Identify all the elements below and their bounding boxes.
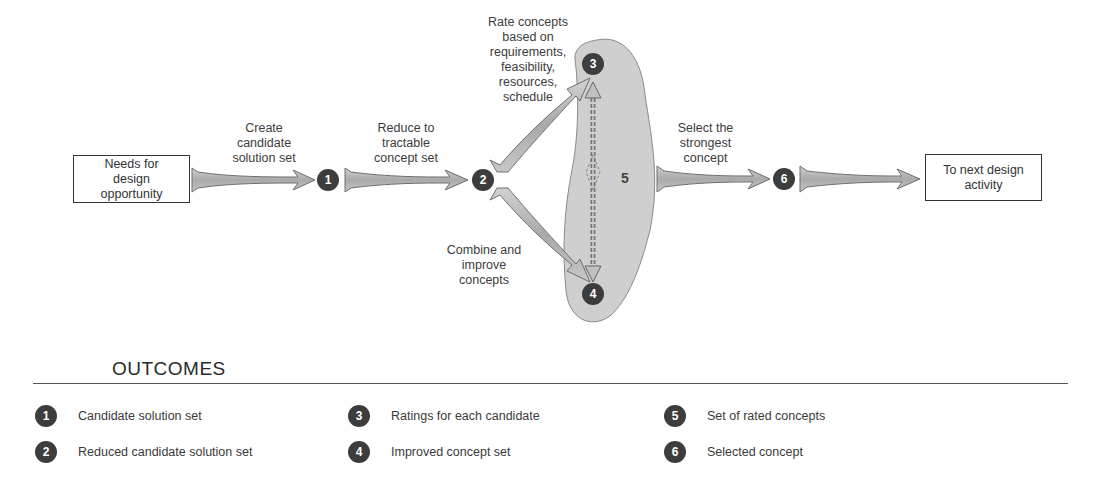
node-3: 3 [582,53,604,75]
outcome-text: Selected concept [707,445,803,459]
outcomes-heading: OUTCOMES [112,358,226,380]
outcome-item-5: 5 Set of rated concepts [664,405,825,427]
arrow-reduce-set [345,168,468,192]
outcome-number: 5 [664,405,686,427]
step-label-rate: Rate concepts based on requirements, fea… [483,15,573,105]
node-4: 4 [582,283,604,305]
outcome-text: Improved concept set [391,445,511,459]
node-1: 1 [317,169,339,191]
node-2: 2 [472,169,494,191]
outcome-number: 2 [35,441,57,463]
outcome-number: 4 [348,441,370,463]
outcome-item-3: 3 Ratings for each candidate [348,405,540,427]
step-label-create: Create candidate solution set [222,121,306,166]
end-box-label: To next design activity [939,163,1029,193]
arrow-create-candidates [192,168,315,192]
outcome-item-1: 1 Candidate solution set [35,405,202,427]
arrow-next-activity [800,166,920,192]
start-box: Needs for design opportunity [73,155,190,203]
outcome-number: 1 [35,405,57,427]
rated-concepts-blob [564,39,655,322]
outcome-text: Reduced candidate solution set [78,445,252,459]
node-6: 6 [773,168,795,190]
start-box-label: Needs for design opportunity [87,157,177,202]
step-label-select: Select the strongest concept [668,121,743,166]
outcome-number: 3 [348,405,370,427]
arrow-select-strongest [657,166,770,192]
outcome-item-2: 2 Reduced candidate solution set [35,441,252,463]
step-label-combine: Combine and improve concepts [438,243,530,288]
outcome-item-6: 6 Selected concept [664,441,803,463]
outcomes-divider [33,383,1068,384]
outcome-number: 6 [664,441,686,463]
outcome-text: Candidate solution set [78,409,202,423]
node-5-label: 5 [621,170,629,186]
concept-selection-diagram: Needs for design opportunity To next des… [0,0,1100,498]
outcome-text: Ratings for each candidate [391,409,540,423]
outcome-item-4: 4 Improved concept set [348,441,511,463]
outcome-text: Set of rated concepts [707,409,825,423]
end-box: To next design activity [925,154,1042,201]
step-label-reduce: Reduce to tractable concept set [364,121,448,166]
